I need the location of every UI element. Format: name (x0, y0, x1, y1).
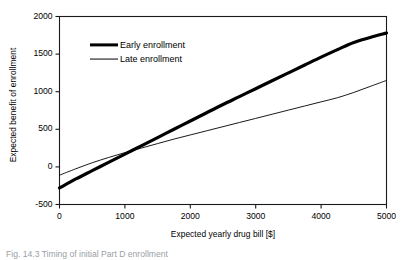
figure-caption: Fig. 14.3 Timing of initial Part D enrol… (6, 249, 406, 260)
x-tick-label: 3000 (226, 211, 286, 221)
x-axis-title: Expected yearly drug bill [$] (59, 229, 387, 239)
y-tick-label: 0 (19, 161, 53, 171)
x-tick-label: 5000 (357, 211, 409, 221)
y-tick-label: 500 (19, 123, 53, 133)
line-chart (0, 0, 409, 260)
y-tick-label: 2000 (19, 11, 53, 21)
legend-line-thin-icon (88, 54, 118, 64)
x-tick-label: 0 (30, 211, 90, 221)
x-tick-label: 2000 (160, 211, 220, 221)
legend-label-late: Late enrollment (120, 54, 182, 64)
y-axis-title: Expected benefit of enrollment (8, 10, 18, 200)
y-tick-label: -500 (19, 199, 53, 209)
x-tick-label: 1000 (95, 211, 155, 221)
chart-legend: Early enrollment Late enrollment (88, 38, 185, 66)
y-tick-label: 1000 (19, 86, 53, 96)
legend-item-early: Early enrollment (88, 38, 185, 52)
legend-line-thick-icon (88, 40, 118, 50)
legend-item-late: Late enrollment (88, 52, 185, 66)
legend-label-early: Early enrollment (120, 40, 185, 50)
x-tick-label: 4000 (291, 211, 351, 221)
figure-container: Expected benefit of enrollment Expected … (0, 0, 409, 260)
y-tick-label: 1500 (19, 48, 53, 58)
